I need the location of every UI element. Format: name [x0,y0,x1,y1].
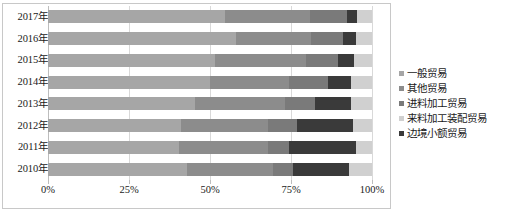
x-axis-label: 0% [41,184,55,195]
y-axis-label: 2014年 [4,76,48,87]
bar-segment [195,97,284,110]
bar-segment [181,119,268,132]
x-axis-tick-labels: 0%25%50%75%100% [48,184,372,200]
bar-row [48,10,372,23]
x-axis-label: 75% [281,184,300,195]
bar-segment [289,141,355,154]
bar-row [48,54,372,67]
stacked-bar-chart: 2017年2016年2015年2014年2013年2012年2011年2010年… [0,0,505,212]
bar-row [48,163,372,176]
legend-label: 来料加工装配贸易 [407,112,487,125]
bar-segment [48,76,210,89]
bar-segment [289,76,328,89]
legend-item[interactable]: 边境小额贸易 [399,126,503,141]
legend-swatch-icon [399,116,404,121]
bar-segment [357,10,372,23]
chart-legend: 一般贸易其他贸易进料加工贸易来料加工装配贸易边境小额贸易 [399,66,503,141]
bar-segment [356,32,372,45]
bar-segment [311,32,343,45]
bar-segment [285,97,316,110]
bar-segment [48,32,236,45]
gridline-100 [372,6,373,180]
y-axis-label: 2017年 [4,11,48,22]
bar-segment [268,119,297,132]
legend-item[interactable]: 进料加工贸易 [399,96,503,111]
legend-label: 其他贸易 [407,82,447,95]
bar-segment [48,163,187,176]
bar-row [48,32,372,45]
bar-segment [187,163,273,176]
bar-segment [354,54,372,67]
y-axis-label: 2010年 [4,163,48,174]
bar-segment [356,141,372,154]
bar-segment [48,54,215,67]
bar-row [48,76,372,89]
legend-item[interactable]: 一般贸易 [399,66,503,81]
y-axis-label: 2012年 [4,120,48,131]
x-axis-label: 25% [119,184,138,195]
legend-item[interactable]: 来料加工装配贸易 [399,111,503,126]
bar-segment [338,54,354,67]
bar-segment [351,97,372,110]
legend-swatch-icon [399,131,404,136]
y-axis-label: 2011年 [4,141,48,152]
bar-segment [48,97,195,110]
bar-segment [343,32,356,45]
legend-swatch-icon [399,86,404,91]
bar-segment [48,10,225,23]
legend-label: 一般贸易 [407,67,447,80]
y-axis-label: 2015年 [4,54,48,65]
bar-segment [273,163,292,176]
legend-swatch-icon [399,101,404,106]
bar-row [48,141,372,154]
bar-segment [293,163,350,176]
bar-row [48,97,372,110]
bar-segment [297,119,352,132]
y-axis-label: 2013年 [4,98,48,109]
bar-segment [328,76,351,89]
legend-label: 边境小额贸易 [407,127,467,140]
y-axis-label: 2016年 [4,33,48,44]
bar-segment [210,76,289,89]
x-axis-label: 50% [200,184,219,195]
bar-segment [225,10,310,23]
bar-segment [215,54,306,67]
bar-segment [306,54,338,67]
bar-segment [351,76,372,89]
legend-item[interactable]: 其他贸易 [399,81,503,96]
bar-segment [310,10,347,23]
x-axis-label: 100% [360,184,385,195]
legend-label: 进料加工贸易 [407,97,467,110]
bar-segment [349,163,372,176]
bar-segment [179,141,268,154]
bar-row [48,119,372,132]
bar-segment [48,141,179,154]
bar-segment [353,119,372,132]
bar-segment [315,97,351,110]
bar-segment [48,119,181,132]
bar-segment [236,32,311,45]
bar-segment [268,141,289,154]
bar-segment [347,10,357,23]
chart-plot-area [48,6,372,180]
legend-swatch-icon [399,71,404,76]
y-axis-category-labels: 2017年2016年2015年2014年2013年2012年2011年2010年 [4,6,48,180]
